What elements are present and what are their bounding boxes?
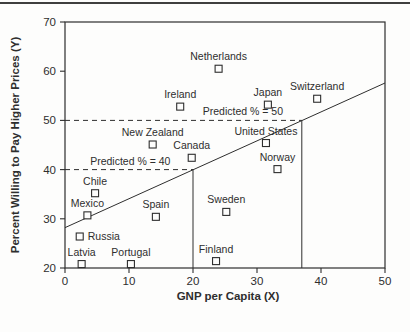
data-point-norway [274, 166, 281, 173]
data-point-spain [152, 213, 159, 220]
y-axis-title: Percent Willing to Pay Higher Prices (Y) [9, 37, 21, 254]
x-axis-title: GNP per Capita (X) [177, 290, 280, 302]
data-point-sweden [223, 208, 230, 215]
country-label-chile: Chile [83, 175, 107, 187]
data-point-portugal [127, 261, 134, 268]
data-point-ireland [177, 103, 184, 110]
country-label-canada: Canada [173, 139, 210, 151]
y-tick-label: 70 [43, 16, 56, 28]
annotation-predicted-40: Predicted % = 40 [90, 155, 170, 167]
data-point-finland [213, 258, 220, 265]
y-tick-label: 60 [43, 65, 56, 77]
data-point-japan [264, 101, 271, 108]
x-tick-label: 0 [62, 275, 68, 287]
x-tick-label: 50 [379, 275, 392, 287]
country-label-spain: Spain [142, 198, 169, 210]
data-point-mexico [84, 212, 91, 219]
country-label-portugal: Portugal [111, 246, 150, 258]
data-point-russia [76, 233, 83, 240]
country-label-latvia: Latvia [68, 246, 96, 258]
x-tick-label: 20 [187, 275, 200, 287]
data-point-latvia [78, 261, 85, 268]
country-label-netherlands: Netherlands [190, 50, 247, 62]
data-point-switzerland [314, 95, 321, 102]
country-label-norway: Norway [260, 151, 296, 163]
x-tick-label: 40 [315, 275, 328, 287]
data-point-netherlands [215, 65, 222, 72]
plot-area: 01020304050203040506070Predicted % = 50P… [43, 16, 391, 287]
country-label-united-states: United States [234, 125, 297, 137]
country-label-sweden: Sweden [207, 193, 245, 205]
country-label-russia: Russia [88, 230, 120, 242]
country-label-new-zealand: New Zealand [122, 126, 184, 138]
country-label-switzerland: Switzerland [290, 80, 344, 92]
scatter-plot: 01020304050203040506070Predicted % = 50P… [0, 0, 410, 332]
data-point-canada [188, 154, 195, 161]
country-label-finland: Finland [199, 243, 234, 255]
x-tick-label: 30 [251, 275, 264, 287]
country-label-mexico: Mexico [71, 197, 104, 209]
data-point-chile [92, 190, 99, 197]
data-point-new-zealand [149, 141, 156, 148]
x-tick-label: 10 [123, 275, 136, 287]
y-tick-label: 20 [43, 262, 56, 274]
country-label-japan: Japan [254, 86, 283, 98]
data-point-united-states [262, 140, 269, 147]
y-tick-label: 30 [43, 213, 56, 225]
y-tick-label: 50 [43, 114, 56, 126]
y-tick-label: 40 [43, 164, 56, 176]
country-label-ireland: Ireland [164, 88, 196, 100]
